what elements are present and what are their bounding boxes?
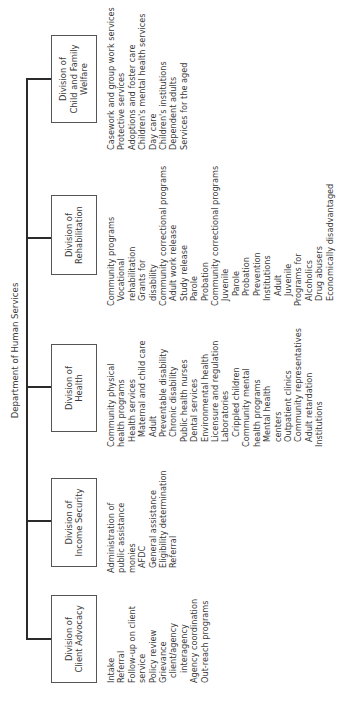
- list-item: Community correctional programs: [158, 166, 168, 306]
- list-item: public assistance: [116, 470, 126, 573]
- list-item: Probation: [241, 166, 251, 306]
- list-item: centers: [273, 328, 283, 447]
- list-item: client/agency: [168, 599, 178, 683]
- division-box-health: Division ofHealth: [51, 344, 97, 432]
- list-item: service: [137, 599, 147, 683]
- chart-title: Department of Human Services: [10, 0, 20, 701]
- list-item: Protective services: [116, 7, 126, 150]
- list-item: Prevention: [252, 166, 262, 306]
- list-item: Community mental: [241, 328, 251, 447]
- list-item: Laboratories: [220, 328, 230, 447]
- trunk-line: [26, 79, 28, 640]
- list-item: Dependent adults: [168, 7, 178, 150]
- list-item: Mental health: [262, 328, 272, 447]
- list-item: Parole: [231, 166, 241, 306]
- list-item: Drug abusers: [314, 166, 324, 306]
- list-item: Environmental health: [200, 328, 210, 447]
- list-item: General assistance: [148, 470, 158, 573]
- list-item: Outpatient clinics: [283, 328, 293, 447]
- list-item: Children's institutions: [158, 7, 168, 150]
- branch-line-income-security: [26, 521, 51, 523]
- list-item: Preventable disability: [158, 328, 168, 447]
- list-item: Casework and group work services: [106, 7, 116, 150]
- list-item: Institutions: [314, 328, 324, 447]
- division-box-income-security: Division ofIncome Security: [51, 478, 97, 567]
- list-item: Health services: [127, 328, 137, 447]
- list-item: Adult: [273, 166, 283, 306]
- list-item: Policy review: [148, 599, 158, 683]
- list-item: Adult retardation: [304, 328, 314, 447]
- list-item: health programs: [116, 328, 126, 447]
- list-item: Juvenile: [220, 166, 230, 306]
- list-item: Institutions: [262, 166, 272, 306]
- list-item: Juvenile: [283, 166, 293, 306]
- division-list-client-advocacy: IntakeReferralFollow-up on clientservice…: [106, 599, 210, 683]
- list-item: Economically disadvantaged: [325, 166, 335, 306]
- list-item: Services for the aged: [179, 7, 189, 150]
- list-item: Referral: [168, 470, 178, 573]
- list-item: Eligibility determination: [158, 470, 168, 573]
- list-item: Agency coordination: [189, 599, 199, 683]
- list-item: Grievance: [158, 599, 168, 683]
- list-item: Public health nurses: [179, 328, 189, 447]
- list-item: Out-reach programs: [200, 599, 210, 683]
- branch-line-child-welfare: [26, 79, 51, 81]
- list-item: Vocational: [116, 166, 126, 306]
- list-item: Referral: [116, 599, 126, 683]
- list-item: Maternal and child care: [137, 328, 147, 447]
- division-list-child-welfare: Casework and group work servicesProtecti…: [106, 7, 189, 150]
- list-item: Community programs: [106, 166, 116, 306]
- division-list-rehabilitation: Community programsVocationalrehabilitati…: [106, 166, 335, 306]
- list-item: Adult work release: [168, 166, 178, 306]
- list-item: Follow-up on client: [127, 599, 137, 683]
- list-item: disability: [148, 166, 158, 306]
- list-item: Adult: [148, 328, 158, 447]
- division-list-income-security: Administration ofpublic assistancemonies…: [106, 470, 179, 573]
- list-item: Administration of: [106, 470, 116, 573]
- list-item: interagency: [179, 599, 189, 683]
- division-box-rehabilitation: Division ofRehabilitation: [51, 195, 97, 275]
- list-item: Study release: [179, 166, 189, 306]
- branch-line-client-advocacy: [26, 639, 51, 641]
- division-list-health: Community physicalhealth programsHealth …: [106, 328, 325, 447]
- list-item: Grants for: [137, 166, 147, 306]
- list-item: rehabilitation: [127, 166, 137, 306]
- list-item: Probation: [200, 166, 210, 306]
- list-item: monies: [127, 470, 137, 573]
- list-item: Programs for: [293, 166, 303, 306]
- list-item: Licensure and regulation: [210, 328, 220, 447]
- list-item: Intake: [106, 599, 116, 683]
- list-item: health programs: [252, 328, 262, 447]
- branch-line-rehabilitation: [26, 238, 51, 240]
- list-item: Community correctional programs: [210, 166, 220, 306]
- division-box-child-welfare: Division ofChild and FamilyWelfare: [51, 35, 97, 123]
- branch-line-health: [26, 387, 51, 389]
- list-item: Community representatives: [293, 328, 303, 447]
- list-item: Children's mental health services: [137, 7, 147, 150]
- org-chart: Department of Human Services Division of…: [0, 0, 338, 701]
- list-item: Chronic disability: [168, 328, 178, 447]
- list-item: Dental services: [189, 328, 199, 447]
- list-item: Day care: [148, 7, 158, 150]
- list-item: Community physical: [106, 328, 116, 447]
- list-item: Alcoholics: [304, 166, 314, 306]
- list-item: Adoptions and foster care: [127, 7, 137, 150]
- list-item: AFDC: [137, 470, 147, 573]
- list-item: Crippled children: [231, 328, 241, 447]
- list-item: Parole: [189, 166, 199, 306]
- division-box-client-advocacy: Division ofClient Advocacy: [51, 595, 97, 683]
